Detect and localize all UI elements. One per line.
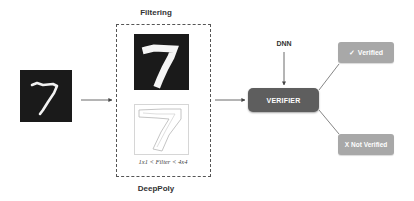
- verifier-to-not-verified-line: [319, 110, 339, 134]
- verifier-to-verified-line: [319, 64, 339, 90]
- connector-layer: [0, 0, 414, 201]
